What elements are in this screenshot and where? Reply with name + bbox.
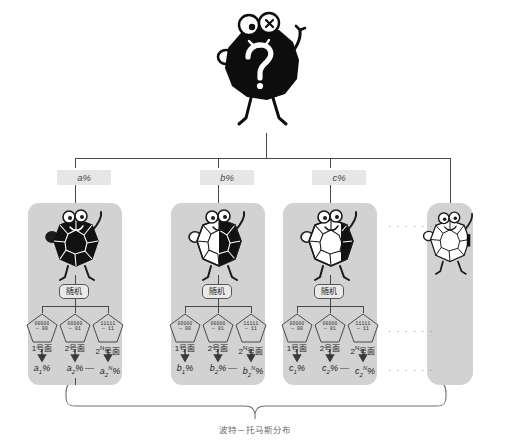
ellipsis-middle: · · · · · · [388, 327, 434, 336]
panel-b-bits-last-top: 11111 [244, 321, 259, 326]
branch-label-c: c% [312, 170, 366, 185]
panel-a-bits-1-top: 00000 [35, 321, 50, 326]
panel-a-bits-2-bottom: — 01 [69, 326, 81, 331]
panel-c-pct1-tail: % [297, 363, 305, 373]
panel-c-bits-1-bottom: — 00 [291, 326, 303, 331]
panel-b-bits-1-bottom: — 00 [179, 326, 191, 331]
branch-label-a: a% [57, 170, 111, 185]
panel-c-bits-1-top: 00000 [290, 321, 305, 326]
panel-a-face-last-suffix: 号面 [104, 347, 120, 356]
panel-b: 随机 00000— 00 00000— 01 11111— 11 1号面 2号面… [171, 203, 265, 385]
branch-label-b: b% [200, 170, 254, 185]
ellipsis-bottom: · · · · · · [388, 366, 434, 375]
panel-c-pctL-tail: % [367, 366, 375, 376]
panel-b-pentagon-2: 00000— 01 [202, 313, 234, 343]
panel-b-pentagon-last: 11111— 11 [235, 313, 267, 343]
panel-a-pentagon-2: 00000— 01 [59, 313, 91, 343]
panel-b-face-last-suffix: 号面 [247, 347, 263, 356]
panel-c-pct2-tail: % [330, 363, 338, 373]
panel-a-bits-2-top: 00000 [68, 321, 83, 326]
panel-a-random-box: 随机 [59, 284, 89, 299]
diagram-caption: 波特－托马斯分布 [0, 425, 510, 436]
panel-a-bits-1-bottom: — 00 [36, 326, 48, 331]
panel-a-percent-last: a2N% [91, 363, 129, 381]
root-question-creature [205, 10, 315, 135]
panel-b-pct1-tail: % [185, 363, 193, 373]
panel-b-pctL-tail: % [255, 366, 263, 376]
diagram-canvas: a% b% c% [0, 0, 510, 443]
panel-b-bits-2-bottom: — 01 [212, 326, 224, 331]
panel-c-pentagon-last: 11111— 11 [347, 313, 379, 343]
panel-a-face-label-last: 2N号面 [89, 343, 127, 357]
panel-b-bits-1-top: 00000 [178, 321, 193, 326]
panel-a-pctL-tail: % [112, 366, 120, 376]
panel-c-percent-last: c2N% [346, 363, 384, 381]
panel-b-random-box: 随机 [202, 284, 232, 299]
panel-c-face-label-last: 2N号面 [344, 343, 382, 357]
panel-c-bits-2-bottom: — 01 [324, 326, 336, 331]
panel-b-pctL-sub: 2 [248, 372, 251, 378]
ellipsis-top: · · · · · · [388, 222, 434, 231]
panel-a-pentagon-last: 11111— 11 [92, 313, 124, 343]
panel-b-bits-last-bottom: — 11 [245, 326, 257, 331]
panel-b-percent-last: b2N% [234, 363, 272, 381]
panel-c-random-box: 随机 [314, 284, 344, 299]
panel-c-bits-last-top: 11111 [356, 321, 371, 326]
panel-b-pentagon-1: 00000— 00 [169, 313, 201, 343]
panel-a-bits-last-top: 11111 [101, 321, 116, 326]
panel-b-face-label-last: 2N号面 [232, 343, 270, 357]
panel-c-bits-last-bottom: — 11 [357, 326, 369, 331]
panel-c: 随机 00000— 00 00000— 01 11111— 11 1号面 2号面… [283, 203, 377, 385]
panel-c-pctL-sub: 2 [360, 372, 363, 378]
panel-a-bits-last-bottom: — 11 [102, 326, 114, 331]
panel-a-pct2-tail: % [75, 363, 83, 373]
panel-a-pentagon-1: 00000— 00 [26, 313, 58, 343]
panel-c-pentagon-2: 00000— 01 [314, 313, 346, 343]
panel-b-pct2-tail: % [218, 363, 226, 373]
panel-c-bits-2-top: 00000 [323, 321, 338, 326]
panel-c-face-last-suffix: 号面 [359, 347, 375, 356]
panel-a-pct1-tail: % [42, 363, 50, 373]
panel-b-bits-2-top: 00000 [211, 321, 226, 326]
panel-c-pentagon-1: 00000— 00 [281, 313, 313, 343]
panel-a: 随机 00000— 00 00000— 01 11111— 11 1号面 2号面… [28, 203, 122, 385]
panel-a-pctL-sub: 2 [105, 372, 108, 378]
panel-more [427, 203, 473, 385]
